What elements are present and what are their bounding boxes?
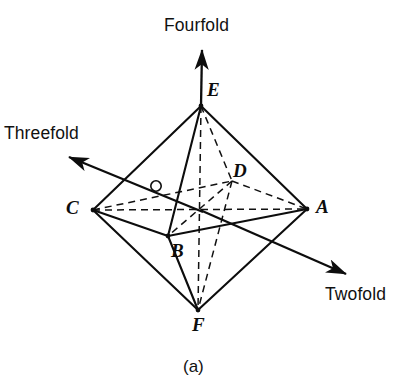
edge-E-D [201, 106, 232, 181]
axis-label-fourfold: Fourfold [164, 15, 229, 36]
threefold-axis-arrow [69, 157, 203, 212]
edge-D-F [198, 181, 232, 310]
vertex-label-B: B [171, 240, 184, 262]
axis-label-twofold: Twofold [325, 284, 386, 305]
vertex-label-E: E [207, 79, 220, 101]
edge-E-A [201, 106, 307, 209]
edge-C-B [93, 210, 168, 236]
vertex-label-A: A [316, 196, 329, 218]
fourfold-axis-arrow [201, 50, 202, 106]
vertex-dot-C [91, 208, 96, 213]
vertex-label-C: C [66, 197, 79, 219]
vertex-dot-B [166, 234, 171, 239]
edge-D-A [232, 181, 307, 209]
edge-B-A [168, 209, 307, 236]
vertex-dot-A [305, 207, 310, 212]
threefold-face-marker-icon [151, 181, 161, 191]
vertex-label-F: F [192, 314, 205, 336]
hidden-edges-group [93, 106, 307, 310]
axis-label-threefold: Threefold [4, 123, 79, 144]
edge-E-B [168, 106, 201, 236]
edge-C-E [93, 106, 201, 210]
vertex-label-D: D [233, 160, 247, 182]
twofold-axis-arrow [200, 210, 346, 274]
vertex-dot-F [196, 308, 201, 313]
edge-F-A [198, 209, 307, 310]
figure-caption: (a) [183, 357, 204, 377]
figure-container: Fourfold Threefold Twofold A B C D E F (… [0, 0, 397, 390]
vertex-dot-E [199, 104, 204, 109]
